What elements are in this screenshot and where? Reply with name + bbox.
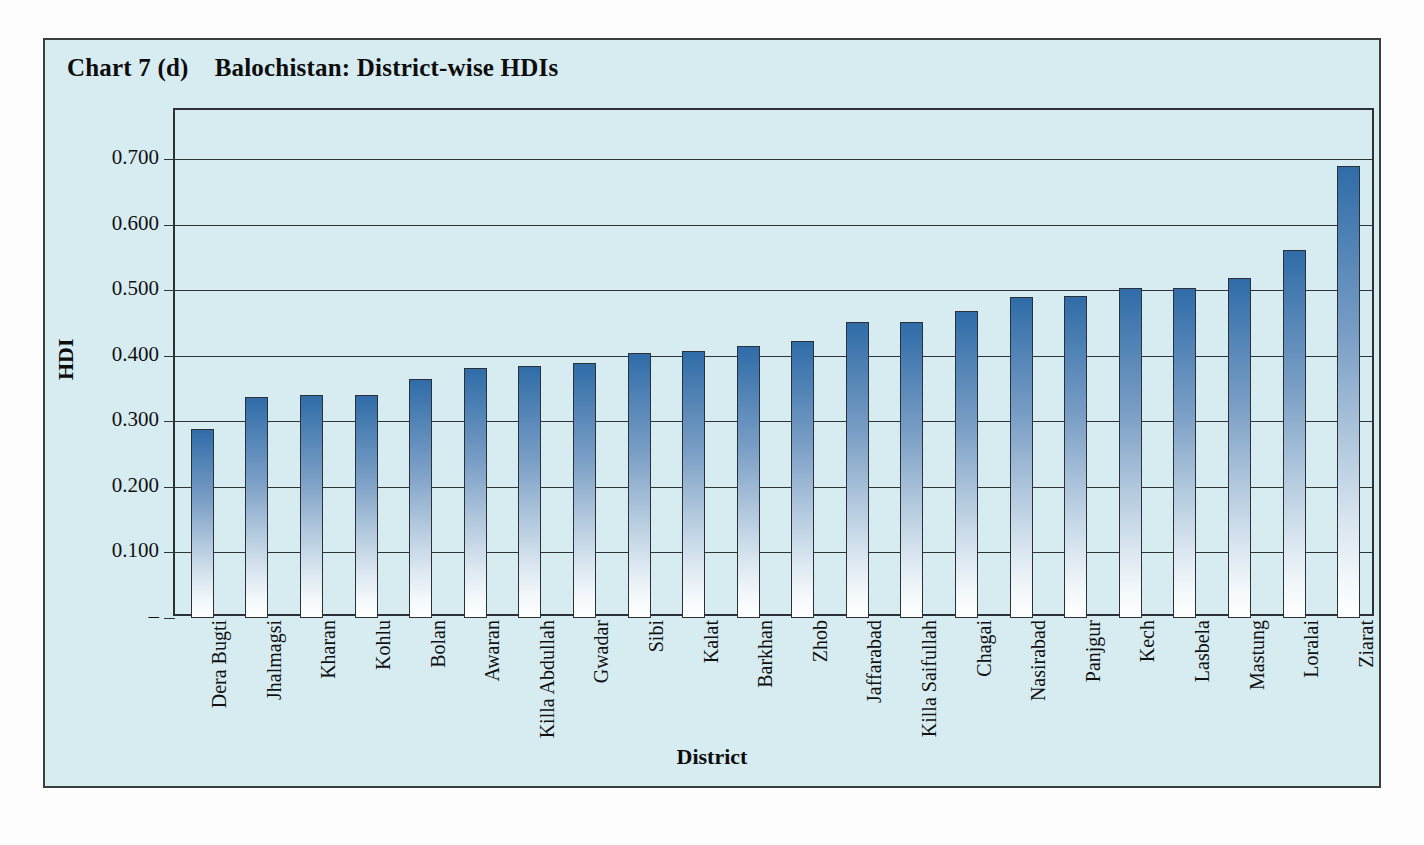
y-axis-tick (164, 159, 175, 160)
bar (1173, 288, 1196, 618)
x-axis-tick-label: Zhob (809, 620, 832, 662)
x-axis-tick-label: Kharan (317, 620, 340, 679)
chart-title-number: Chart 7 (d) (67, 54, 189, 81)
y-axis-tick-label: 0.100 (112, 538, 159, 563)
bar (900, 322, 923, 618)
y-axis-tick-label: 0.300 (112, 407, 159, 432)
x-axis-tick-label: Mastung (1246, 620, 1269, 690)
gridline (175, 225, 1372, 226)
x-axis-tick-label: Loralai (1300, 620, 1323, 678)
bar (682, 351, 705, 618)
x-axis-tick-label: Panjgur (1082, 620, 1105, 682)
bar (1119, 288, 1142, 618)
bar (628, 353, 651, 618)
chart-title: Chart 7 (d)Balochistan: District-wise HD… (67, 54, 558, 82)
x-axis-tick-label: Ziarat (1355, 620, 1378, 668)
chart-title-text: Balochistan: District-wise HDIs (215, 54, 559, 81)
y-axis-tick-label: 0.700 (112, 145, 159, 170)
chart-card: Chart 7 (d)Balochistan: District-wise HD… (43, 38, 1381, 788)
y-axis-tick-label: – (149, 604, 160, 629)
bar (1228, 278, 1251, 618)
bar (518, 366, 541, 618)
x-axis-tick-label: Killa Saifullah (918, 620, 941, 737)
x-axis-tick-label: Kech (1136, 620, 1159, 662)
bar (300, 395, 323, 618)
plot-area (173, 108, 1374, 616)
bar (846, 322, 869, 618)
y-axis-tick (164, 225, 175, 226)
chart-screenshot: Chart 7 (d)Balochistan: District-wise HD… (0, 0, 1424, 845)
bar (1010, 297, 1033, 618)
x-axis-tick-label: Jhalmagsi (263, 620, 286, 700)
bar (791, 341, 814, 618)
bar (464, 368, 487, 618)
bar (409, 379, 432, 618)
bar (355, 395, 378, 618)
x-axis-tick-label: Dera Bugti (208, 620, 231, 708)
x-axis-tick-label: Kalat (700, 620, 723, 663)
bar (1337, 166, 1360, 618)
y-axis-tick-label: 0.600 (112, 210, 159, 235)
x-axis-tick-label: Nasirabad (1027, 620, 1050, 701)
x-axis-tick-label: Sibi (645, 620, 668, 652)
y-axis-tick-label: 0.400 (112, 341, 159, 366)
y-axis-tick (164, 487, 175, 488)
y-axis-tick (164, 552, 175, 553)
y-axis-tick-labels: 0.7000.6000.5000.4000.3000.2000.100– (45, 108, 173, 616)
bar (191, 429, 214, 618)
x-axis-tick-label: Bolan (427, 620, 450, 668)
y-axis-tick-label: 0.500 (112, 276, 159, 301)
bar (955, 311, 978, 618)
x-axis-tick-label: Lasbela (1191, 620, 1214, 682)
y-axis-tick (164, 618, 175, 619)
y-axis-tick-label: 0.200 (112, 472, 159, 497)
x-axis-tick-label: Barkhan (754, 620, 777, 688)
x-axis-tick-label: Killa Abdullah (536, 620, 559, 738)
x-axis-tick-label: Kohlu (372, 620, 395, 670)
bar (573, 363, 596, 618)
x-axis-tick-label: Gwadar (590, 620, 613, 683)
x-axis-tick-label: Awaran (481, 620, 504, 681)
x-axis-title: District (45, 744, 1379, 770)
bar (245, 397, 268, 618)
gridline (175, 159, 1372, 160)
y-axis-tick (164, 421, 175, 422)
bar (1064, 296, 1087, 618)
y-axis-tick (164, 290, 175, 291)
bar (737, 346, 760, 618)
y-axis-tick (164, 356, 175, 357)
x-axis-tick-label: Jaffarabad (863, 620, 886, 703)
x-axis-tick-label: Chagai (973, 620, 996, 677)
bar (1283, 250, 1306, 618)
